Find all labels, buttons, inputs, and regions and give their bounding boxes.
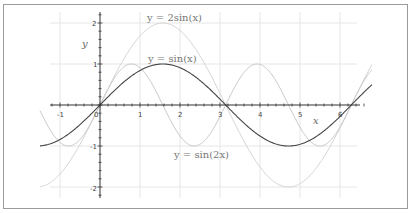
plot-area: -1 0 1 2 3 4 5 6 2 1 -1 -2 y x y = 2sin(… — [0, 0, 414, 214]
axes — [50, 12, 364, 198]
x-tick-label: 3 — [218, 111, 222, 119]
label-sin2x: y = sin(2x) — [173, 149, 229, 160]
y-tick-label: -2 — [90, 185, 97, 193]
x-tick-label: -1 — [57, 111, 64, 119]
x-axis-label: x — [313, 115, 319, 126]
origin-label: 0 — [94, 111, 98, 119]
y-tick-label: 2 — [92, 20, 96, 28]
x-tick-label: 4 — [258, 111, 263, 119]
label-2sin: y = 2sin(x) — [146, 12, 202, 23]
y-tick-label: 1 — [93, 61, 97, 69]
label-sin: y = sin(x) — [147, 53, 197, 64]
x-tick-label: 2 — [178, 111, 182, 119]
x-tick-label: 5 — [298, 111, 302, 119]
x-tick-label: 1 — [138, 111, 142, 119]
y-axis-label: y — [81, 38, 88, 49]
y-tick-label: -1 — [90, 143, 97, 151]
x-tick-label: 6 — [338, 111, 343, 119]
